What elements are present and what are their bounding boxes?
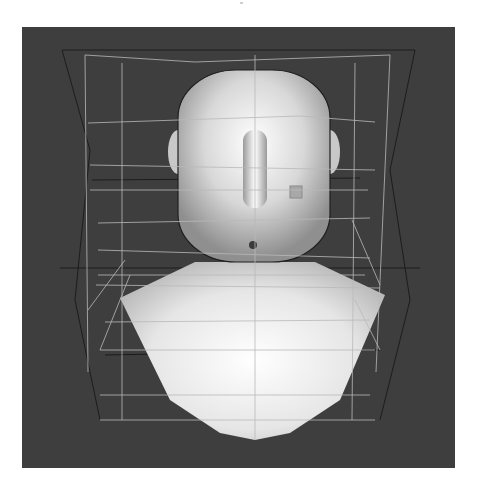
lattice-edge-hidden [380, 300, 410, 420]
lattice-edge-hidden [390, 170, 410, 300]
lattice-edge-hidden [75, 150, 90, 300]
torso-mesh[interactable] [120, 262, 385, 440]
lattice-edge [85, 55, 88, 372]
selected-vertex-marker[interactable] [290, 186, 302, 198]
lattice-edge-hidden [390, 50, 415, 170]
lattice-edge [376, 55, 390, 372]
lattice-edge [100, 275, 130, 350]
lattice-edge [85, 55, 195, 62]
top-tick-mark [240, 2, 243, 4]
pivot-point-marker[interactable] [249, 241, 257, 249]
bust-mesh[interactable] [120, 70, 385, 440]
lattice-edge [195, 55, 390, 62]
scene-canvas[interactable] [22, 27, 455, 468]
3d-viewport[interactable] [22, 27, 455, 468]
